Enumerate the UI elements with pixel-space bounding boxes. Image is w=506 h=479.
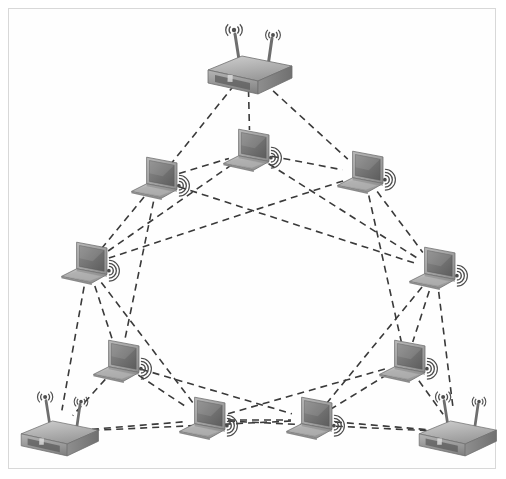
laptop-lower-right <box>379 340 425 383</box>
router-chassis <box>21 421 98 456</box>
wireless-link <box>179 187 415 263</box>
laptop-upper-right-signal <box>383 169 395 190</box>
laptop-lower-left-signal <box>139 358 151 379</box>
wireless-link <box>413 291 429 342</box>
laptop-bottom-left-signal <box>225 415 237 436</box>
wifi-signal-icon <box>269 147 281 168</box>
node-layer <box>21 24 496 456</box>
wireless-link <box>172 85 234 163</box>
laptop-bottom-right-signal <box>332 415 344 436</box>
wifi-signal-icon <box>107 260 119 281</box>
network-topology-figure <box>0 0 506 479</box>
router-chassis <box>208 56 292 94</box>
laptop-upper-center <box>223 129 269 172</box>
wireless-link <box>249 90 250 130</box>
wifi-signal-icon <box>177 175 189 196</box>
wireless-link <box>419 381 443 414</box>
laptop-right <box>409 247 455 290</box>
laptop-upper-left-signal <box>177 175 189 196</box>
laptop-left-signal <box>107 260 119 281</box>
wifi-signal-icon <box>383 169 395 190</box>
router-top <box>208 24 292 94</box>
wireless-link <box>264 83 348 159</box>
router-bottom-left <box>21 392 98 456</box>
wifi-signal-icon <box>425 358 437 379</box>
laptop-lower-left <box>93 340 139 383</box>
laptop-right-signal <box>455 265 467 286</box>
wifi-signal-icon <box>332 415 344 436</box>
wireless-link <box>332 374 387 408</box>
laptop-bottom-right <box>286 397 332 440</box>
laptop-upper-right <box>337 151 383 194</box>
wireless-link <box>439 292 454 410</box>
laptop-upper-left <box>131 157 177 200</box>
wireless-link <box>73 379 106 415</box>
wireless-link <box>62 287 84 411</box>
laptop-left <box>61 242 107 285</box>
topology-canvas <box>0 0 506 479</box>
wireless-link <box>377 192 423 253</box>
laptop-lower-right-signal <box>425 358 437 379</box>
wifi-signal-icon <box>225 415 237 436</box>
wireless-link <box>272 156 343 170</box>
wifi-signal-icon <box>139 358 151 379</box>
wireless-link <box>369 195 401 341</box>
router-chassis <box>419 421 496 456</box>
wifi-signal-icon <box>455 265 467 286</box>
laptop-upper-center-signal <box>269 147 281 168</box>
laptop-bottom-left <box>179 397 225 440</box>
router-bottom-right <box>419 392 496 456</box>
